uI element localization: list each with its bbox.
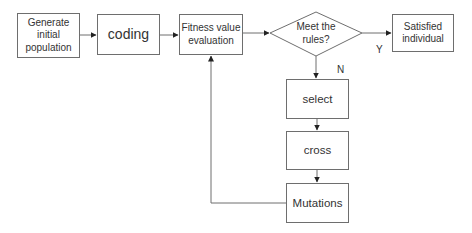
mutations-box: Mutations bbox=[286, 183, 349, 223]
cross-label: cross bbox=[304, 143, 331, 157]
satisfied-individual-box: Satisfied individual bbox=[392, 14, 454, 52]
select-label: select bbox=[302, 92, 332, 106]
satisfied-label-line2: individual bbox=[402, 33, 444, 46]
fitness-label-line2: evaluation bbox=[182, 35, 241, 48]
generate-label-line1: Generate bbox=[25, 17, 71, 30]
generate-label-line2: initial bbox=[25, 29, 71, 42]
decision-label-line1: Meet the bbox=[286, 20, 346, 33]
generate-label-line3: population bbox=[25, 42, 71, 55]
decision-label-line2: rules? bbox=[286, 33, 346, 46]
coding-label: coding bbox=[108, 26, 149, 44]
no-label: N bbox=[337, 64, 344, 75]
fitness-label-line1: Fitness value bbox=[182, 22, 241, 35]
generate-population-box: Generate initial population bbox=[17, 13, 80, 58]
fitness-evaluation-box: Fitness value evaluation bbox=[179, 14, 243, 55]
decision-label: Meet the rules? bbox=[286, 20, 346, 46]
mutations-label: Mutations bbox=[293, 196, 343, 210]
satisfied-label-line1: Satisfied bbox=[402, 21, 444, 34]
arrow-mutations-fitness bbox=[211, 56, 286, 203]
coding-box: coding bbox=[97, 14, 160, 55]
cross-box: cross bbox=[286, 131, 349, 170]
yes-label: Y bbox=[376, 44, 383, 55]
select-box: select bbox=[286, 79, 349, 119]
